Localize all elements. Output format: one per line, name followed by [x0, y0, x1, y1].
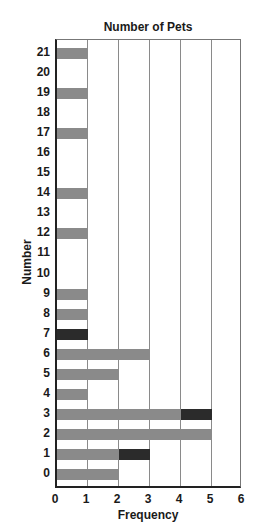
x-tick-label: 4: [169, 492, 189, 506]
y-tick-label: 20: [20, 65, 50, 79]
bar-7: [57, 329, 88, 340]
bar-segment-dark: [119, 449, 150, 460]
y-tick-label: 7: [20, 326, 50, 340]
x-tick-label: 1: [76, 492, 96, 506]
y-tick-label: 14: [20, 185, 50, 199]
y-tick-label: 2: [20, 426, 50, 440]
y-tick-label: 9: [20, 286, 50, 300]
x-tick-label: 0: [45, 492, 65, 506]
bar-segment-light: [57, 349, 150, 360]
bar-segment-light: [57, 228, 88, 239]
bar-19: [57, 88, 88, 99]
y-axis-title: Number: [20, 239, 34, 284]
bar-segment-light: [57, 289, 88, 300]
y-tick-label: 19: [20, 85, 50, 99]
x-tick-label: 3: [138, 492, 158, 506]
y-tick-label: 3: [20, 406, 50, 420]
y-tick-label: 6: [20, 346, 50, 360]
bar-segment-dark: [57, 329, 88, 340]
bar-9: [57, 289, 88, 300]
y-tick-label: 8: [20, 306, 50, 320]
bar-segment-light: [57, 369, 119, 380]
bar-segment-light: [57, 128, 88, 139]
bar-0: [57, 469, 119, 480]
bar-segment-light: [57, 188, 88, 199]
bar-5: [57, 369, 119, 380]
y-tick-label: 21: [20, 45, 50, 59]
bar-4: [57, 389, 88, 400]
chart-title: Number of Pets: [55, 20, 241, 34]
bar-17: [57, 128, 88, 139]
bar-21: [57, 48, 88, 59]
bar-segment-light: [57, 469, 119, 480]
y-tick-label: 4: [20, 386, 50, 400]
x-tick-label: 2: [107, 492, 127, 506]
bar-segment-light: [57, 389, 88, 400]
bar-segment-dark: [181, 409, 212, 420]
bar-segment-light: [57, 409, 181, 420]
y-tick-label: 16: [20, 145, 50, 159]
bar-segment-light: [57, 429, 212, 440]
bar-segment-light: [57, 449, 119, 460]
y-tick-label: 17: [20, 125, 50, 139]
plot-area: [55, 39, 241, 488]
bar-segment-light: [57, 309, 88, 320]
bar-3: [57, 409, 212, 420]
y-tick-label: 5: [20, 366, 50, 380]
y-tick-label: 18: [20, 105, 50, 119]
bar-segment-light: [57, 48, 88, 59]
bar-14: [57, 188, 88, 199]
y-tick-label: 13: [20, 205, 50, 219]
bar-8: [57, 309, 88, 320]
bar-6: [57, 349, 150, 360]
y-tick-label: 0: [20, 466, 50, 480]
x-tick-label: 6: [231, 492, 251, 506]
y-tick-label: 12: [20, 225, 50, 239]
x-tick-label: 5: [200, 492, 220, 506]
bar-1: [57, 449, 150, 460]
y-tick-label: 1: [20, 446, 50, 460]
bar-segment-light: [57, 88, 88, 99]
y-tick-label: 15: [20, 165, 50, 179]
x-axis-title: Frequency: [55, 508, 241, 522]
bar-2: [57, 429, 212, 440]
bar-12: [57, 228, 88, 239]
